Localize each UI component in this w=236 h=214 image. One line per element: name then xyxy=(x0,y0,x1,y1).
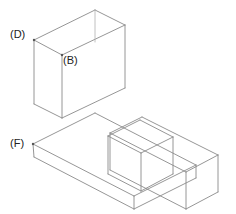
isometric-drawing-canvas: (D) (B) (F) xyxy=(0,0,236,214)
edge-base-vert-left xyxy=(33,144,34,157)
edge-arm-top-front-right xyxy=(186,155,218,172)
vertex-label-b: (B) xyxy=(63,54,78,66)
edge-arm-top-long-rear xyxy=(142,117,218,155)
edge-group xyxy=(33,10,218,209)
edge-upright-base-left xyxy=(34,104,62,118)
vertex-label-f: (F) xyxy=(10,137,24,149)
edge-base-bottom-left xyxy=(34,157,134,209)
vertex-marker-f xyxy=(32,143,34,145)
edge-inner-top-right xyxy=(140,120,173,137)
edge-arm-top-long-front xyxy=(110,133,186,172)
edge-upright-top-rear-left xyxy=(34,10,95,40)
vertex-marker-d xyxy=(33,39,35,41)
edge-base-front-to-left xyxy=(33,144,134,196)
edge-arm-bottom-right xyxy=(186,192,218,209)
edge-inner-bottom-left xyxy=(108,174,141,191)
edge-arm-top-rear xyxy=(110,117,142,133)
edge-inner-bottom-right xyxy=(141,174,173,191)
edge-upright-top-rear-right xyxy=(95,10,125,25)
vertex-marker-group xyxy=(32,39,63,145)
edge-upright-top-front-right xyxy=(62,25,125,55)
vertex-label-d: (D) xyxy=(10,28,25,40)
edge-base-bottom-right xyxy=(134,178,196,209)
isometric-wireframe xyxy=(0,0,236,214)
edge-base-right-to-front xyxy=(134,165,196,196)
edge-upright-top-front-left xyxy=(34,40,62,55)
edge-base-top-rear xyxy=(33,113,95,144)
edge-inner-top-front-left xyxy=(108,136,141,153)
